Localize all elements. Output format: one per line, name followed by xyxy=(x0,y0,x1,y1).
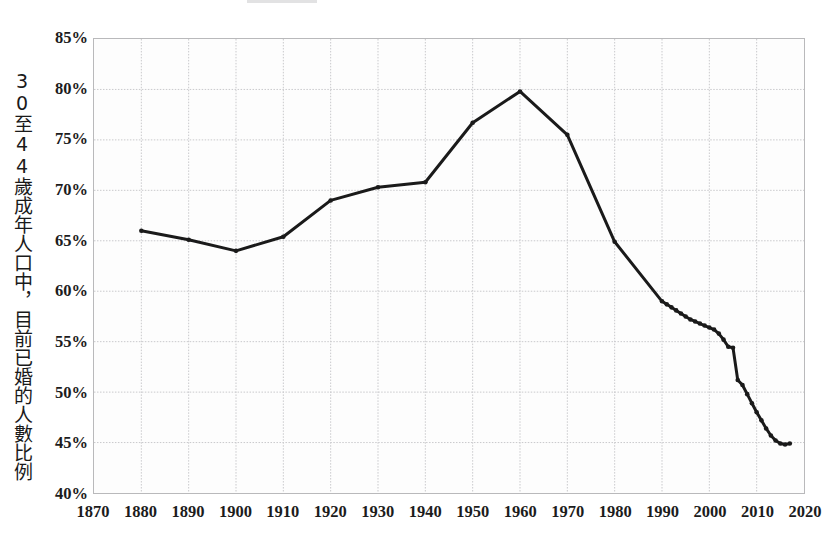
x-tick-label: 2020 xyxy=(773,502,826,522)
